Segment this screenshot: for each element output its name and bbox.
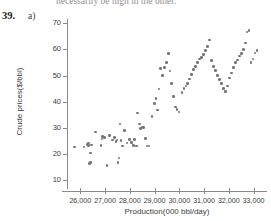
x-axis-tick-label: 29,000 [142,196,168,205]
data-point [156,109,159,112]
x-axis-tick-label-wrap: 32,000 [216,196,242,205]
data-point [196,61,199,64]
data-point [183,87,186,90]
data-point [234,61,237,64]
data-point [136,112,139,115]
x-axis-line [62,191,267,192]
data-point [178,111,181,114]
data-point [120,139,123,142]
y-axis-tick-label: 70 [45,19,61,27]
x-axis-tick-label: 33,000 [241,196,267,205]
data-point [210,59,213,62]
y-axis-tick-label: 40 [45,98,61,106]
data-point [194,65,197,68]
data-point [94,131,97,134]
data-point [126,142,129,145]
y-axis-tick-label: 30 [45,124,61,132]
x-axis-tick-label: 30,000 [166,196,192,205]
data-point [108,134,111,137]
data-point [200,56,203,59]
x-axis-tick [130,188,131,194]
data-point [83,146,86,149]
data-point [236,59,239,62]
data-point [142,126,145,129]
y-axis-tick-label-wrap: 70 [45,19,61,27]
y-axis-tick-label-wrap: 40 [45,98,61,106]
data-point [144,137,147,140]
data-point [89,152,92,155]
data-point [250,61,253,64]
x-axis-tick-label-wrap: 31,000 [191,196,217,205]
x-axis-tick-label-wrap: 28,000 [117,196,143,205]
x-axis-tick [229,188,230,194]
data-point [190,73,193,76]
x-axis-tick [254,188,255,194]
data-point [204,49,207,52]
x-axis-tick-label: 27,000 [92,196,118,205]
y-axis-tick-label-wrap: 60 [45,45,61,53]
data-point [256,49,259,52]
data-point [148,145,151,148]
data-point [192,68,195,71]
data-point [185,85,188,88]
data-point [248,29,251,32]
y-axis-tick-label: 10 [45,176,61,184]
x-axis-tick-label: 26,000 [67,196,93,205]
data-point [224,90,227,93]
data-point [218,78,221,81]
data-point [89,161,92,164]
data-point [133,138,136,141]
data-point [170,82,173,85]
x-axis-tick-label-wrap: 26,000 [67,196,93,205]
data-point [186,82,189,85]
x-axis-tick-label: 31,000 [191,196,217,205]
data-point [242,48,245,51]
y-axis-tick-label: 20 [45,150,61,158]
data-point [155,97,158,100]
x-axis-tick [155,188,156,194]
data-point [106,164,109,167]
data-point [181,91,184,94]
data-point [212,65,215,68]
data-point [206,45,209,48]
data-point [163,66,166,69]
data-point [202,53,205,56]
data-point [100,144,103,147]
data-point [228,77,231,80]
data-point [165,61,168,64]
data-point [138,123,141,126]
data-point [118,157,121,160]
x-axis-tick-label: 28,000 [117,196,143,205]
y-axis-tick-label-wrap: 20 [45,150,61,158]
data-point [158,88,161,91]
data-point [153,102,156,105]
x-axis-tick [105,188,106,194]
data-point [232,66,235,69]
y-axis-tick-label-wrap: 30 [45,124,61,132]
x-axis-tick [179,188,180,194]
y-axis-tick-label-wrap: 50 [45,72,61,80]
x-axis-tick-label-wrap: 30,000 [166,196,192,205]
data-point [90,144,93,147]
textbook-page: necessarily be high in the other. 39. a)… [0,0,271,221]
data-point [169,70,172,73]
x-axis-tick-label: 32,000 [216,196,242,205]
data-point [123,129,126,132]
data-point [214,69,217,72]
x-axis-title: Production(000 bbl/day) [68,207,266,216]
data-point [103,136,106,139]
data-point [240,52,243,55]
data-point [244,42,247,45]
data-point [135,145,138,148]
x-axis-tick [204,188,205,194]
data-point [117,161,120,164]
data-point [119,123,122,126]
x-axis-tick [80,188,81,194]
scatter-plot: 10203040506070 26,00027,00028,00029,0003… [0,0,271,221]
data-point [159,67,162,70]
data-point [151,115,154,118]
x-axis-tick-label-wrap: 33,000 [241,196,267,205]
data-point [116,139,119,142]
data-point [167,52,170,55]
data-point [121,145,124,148]
